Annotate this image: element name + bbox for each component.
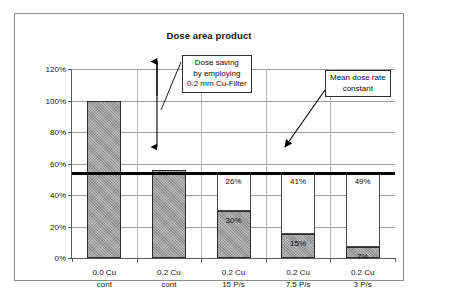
y-axis-label: 40% xyxy=(50,191,66,200)
x-axis-category-label: 0.2 Cu3 P/s xyxy=(351,267,375,290)
x-tick-mark xyxy=(137,258,138,262)
category-label-line-1: 0.0 Cu xyxy=(93,267,117,279)
y-axis-label: 20% xyxy=(50,222,66,231)
mean-dose-rate-reference-line xyxy=(72,172,395,175)
bar-2 xyxy=(152,170,186,258)
category-divider xyxy=(201,69,202,258)
bar-remainder-label: 26% xyxy=(218,177,250,186)
y-axis-label: 80% xyxy=(50,128,66,137)
mean-dose-rate-line-1: Mean dose rate xyxy=(330,73,386,84)
bar-5: 7% xyxy=(346,247,380,258)
category-label-line-2: 3 P/s xyxy=(351,279,375,291)
y-axis-label: 120% xyxy=(46,65,66,74)
y-axis-label: 100% xyxy=(46,96,66,105)
x-tick-mark xyxy=(395,258,396,262)
category-label-line-2: cont xyxy=(157,279,181,291)
category-label-line-1: 0.2 Cu xyxy=(222,267,246,279)
category-label-line-2: cont xyxy=(93,279,117,291)
y-axis-label: 0% xyxy=(54,254,66,263)
chart-title: Dose area product xyxy=(15,30,403,41)
y-tick-mark xyxy=(68,101,72,102)
x-tick-mark xyxy=(266,258,267,262)
bar-3: 30% xyxy=(217,211,251,258)
bar-value-label: 7% xyxy=(347,252,379,261)
x-tick-mark xyxy=(201,258,202,262)
x-tick-mark xyxy=(330,258,331,262)
y-tick-mark xyxy=(68,195,72,196)
category-label-line-2: 7.5 P/s xyxy=(286,279,311,291)
y-tick-mark xyxy=(68,69,72,70)
bar-4: 15% xyxy=(281,234,315,258)
x-tick-mark xyxy=(72,258,73,262)
dose-saving-line-3: 0.2 mm Cu-Filter xyxy=(187,79,247,90)
x-axis-category-label: 0.0 Cucont xyxy=(93,267,117,290)
bar-remainder-4: 41% xyxy=(281,173,315,234)
x-axis-category-label: 0.2 Cu15 P/s xyxy=(222,267,246,290)
x-axis-category-label: 0.2 Cu7.5 P/s xyxy=(286,267,311,290)
category-label-line-1: 0.2 Cu xyxy=(286,267,311,279)
y-tick-mark xyxy=(68,164,72,165)
category-divider xyxy=(266,69,267,258)
bar-remainder-label: 49% xyxy=(347,177,379,186)
chart-frame: Dose area product 0%20%40%60%80%100%120%… xyxy=(14,13,404,281)
category-label-line-2: 15 P/s xyxy=(222,279,246,291)
dose-saving-line-2: by employing xyxy=(187,69,247,80)
bar-remainder-label: 41% xyxy=(282,177,314,186)
x-axis-category-label: 0.2 Cucont xyxy=(157,267,181,290)
bar-remainder-3: 26% xyxy=(217,173,251,211)
bar-1 xyxy=(87,101,121,259)
bar-remainder-5: 49% xyxy=(346,173,380,247)
y-tick-mark xyxy=(68,227,72,228)
bar-value-label: 15% xyxy=(282,239,314,248)
category-divider xyxy=(137,69,138,258)
mean-dose-rate-callout: Mean dose rate constant xyxy=(325,70,391,97)
dose-saving-callout: Dose saving by employing 0.2 mm Cu-Filte… xyxy=(182,55,252,93)
mean-dose-rate-line-2: constant xyxy=(330,84,386,95)
plot-area: 0%20%40%60%80%100%120%0.0 Cucont0.2 Cuco… xyxy=(71,69,395,259)
category-label-line-1: 0.2 Cu xyxy=(157,267,181,279)
y-axis-label: 60% xyxy=(50,159,66,168)
category-divider xyxy=(330,69,331,258)
y-tick-mark xyxy=(68,132,72,133)
dose-saving-line-1: Dose saving xyxy=(187,58,247,69)
bar-value-label: 30% xyxy=(218,216,250,225)
category-label-line-1: 0.2 Cu xyxy=(351,267,375,279)
